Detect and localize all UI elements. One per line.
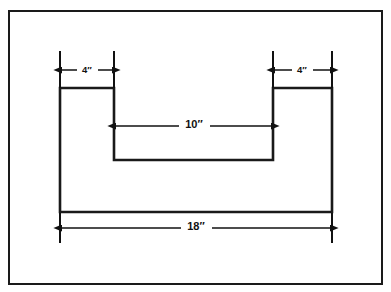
technical-drawing-canvas: 4″ 4″ 10″ 18″: [0, 0, 391, 292]
dimension-label-right-flange: 4″: [297, 64, 307, 75]
dimension-label-left-flange: 4″: [82, 64, 92, 75]
dimension-label-overall-width: 18″: [187, 220, 205, 232]
figure-root: 4″ 4″ 10″ 18″: [0, 0, 391, 292]
dimension-label-notch-width: 10″: [185, 118, 203, 130]
